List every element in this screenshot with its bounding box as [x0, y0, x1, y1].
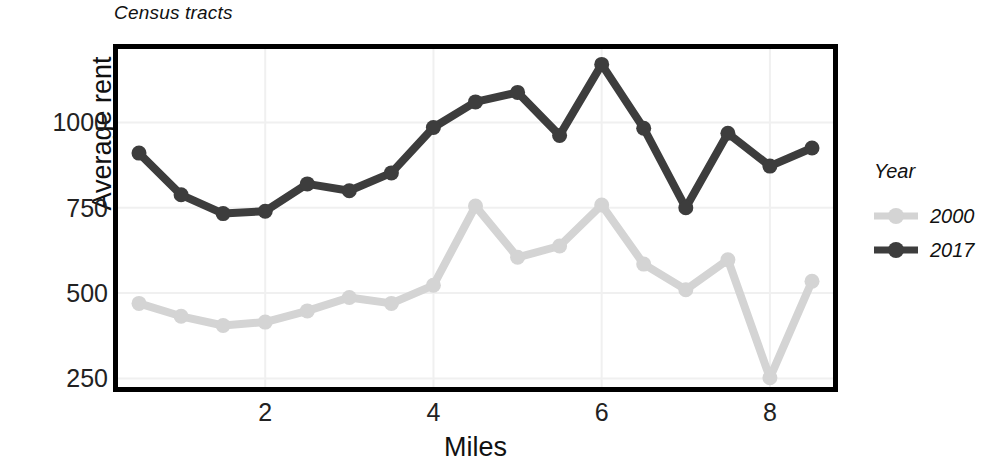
- data-point: [132, 146, 147, 161]
- data-point: [216, 206, 231, 221]
- legend: Year 20002017: [874, 160, 975, 267]
- data-point: [342, 183, 357, 198]
- data-point: [174, 309, 189, 324]
- y-tick-label: 500: [30, 279, 108, 308]
- y-axis-ticks: 2505007501000: [28, 0, 108, 474]
- data-point: [636, 121, 651, 136]
- data-point: [384, 296, 399, 311]
- data-point: [258, 204, 273, 219]
- x-tick-label: 6: [595, 398, 609, 427]
- legend-swatch-icon: [874, 233, 918, 267]
- data-point: [552, 239, 567, 254]
- data-point: [384, 165, 399, 180]
- data-point: [510, 85, 525, 100]
- legend-item-label: 2017: [930, 239, 975, 262]
- data-point: [720, 252, 735, 267]
- data-point: [805, 141, 820, 156]
- x-tick-label: 8: [763, 398, 777, 427]
- y-tick-label: 250: [30, 364, 108, 393]
- data-point: [174, 187, 189, 202]
- legend-entries: 20002017: [874, 199, 975, 267]
- data-point: [636, 257, 651, 272]
- data-point: [300, 303, 315, 318]
- x-tick-label: 4: [426, 398, 440, 427]
- y-tick-label: 1000: [30, 108, 108, 137]
- data-point: [720, 126, 735, 141]
- data-point: [426, 120, 441, 135]
- data-point: [426, 278, 441, 293]
- x-axis-label: Miles: [113, 432, 838, 463]
- data-point: [762, 370, 777, 385]
- data-point: [258, 315, 273, 330]
- data-point: [468, 94, 483, 109]
- series-line-2000: [139, 205, 812, 378]
- data-point: [468, 199, 483, 214]
- y-tick-label: 750: [30, 193, 108, 222]
- plot-canvas: [118, 49, 833, 387]
- data-point: [552, 128, 567, 143]
- data-point: [678, 282, 693, 297]
- legend-swatch-icon: [874, 199, 918, 233]
- legend-item-2017[interactable]: 2017: [874, 233, 975, 267]
- data-point: [132, 296, 147, 311]
- legend-title: Year: [874, 160, 975, 183]
- data-point: [762, 159, 777, 174]
- data-point: [678, 200, 693, 215]
- series-line-2017: [139, 64, 812, 213]
- legend-item-label: 2000: [930, 205, 975, 228]
- data-point: [510, 250, 525, 265]
- x-tick-label: 2: [258, 398, 272, 427]
- legend-item-2000[interactable]: 2000: [874, 199, 975, 233]
- chart-title: Census tracts: [114, 2, 233, 24]
- data-point: [594, 198, 609, 213]
- data-point: [805, 274, 820, 289]
- data-point: [216, 318, 231, 333]
- data-point: [342, 290, 357, 305]
- plot-area: [113, 44, 838, 392]
- data-point: [300, 176, 315, 191]
- data-point: [594, 57, 609, 72]
- chart-root: Census tracts Average rent 2505007501000…: [0, 0, 999, 474]
